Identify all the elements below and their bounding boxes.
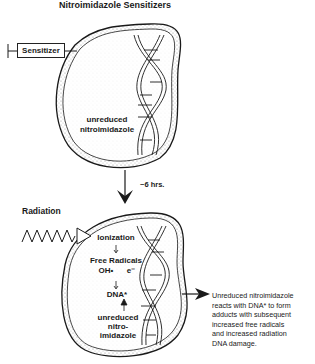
- step-ionization: Ionization: [86, 233, 146, 242]
- sensitizer-syringe-label: Sensitizer: [17, 43, 65, 58]
- bottom-label-unreduced: unreduced: [88, 313, 148, 322]
- radiation-label: Radiation: [22, 207, 72, 216]
- step-free-radicals: Free Radicals: [80, 256, 152, 265]
- time-label: ~6 hrs.: [140, 180, 164, 189]
- outcome-description: Unreduced nitroimidazole reacts with DNA…: [212, 291, 315, 349]
- outcome-line: reacts with DNA* to form: [212, 301, 315, 311]
- outcome-line: DNA damage.: [212, 339, 315, 349]
- outcome-line: adducts with subsequent: [212, 310, 315, 320]
- radiation-wave-icon: [22, 228, 91, 244]
- radical-oh: OH•: [94, 266, 118, 275]
- bottom-label-imidazole: imidazole: [88, 331, 148, 340]
- step-dna-star: DNA*: [100, 290, 134, 299]
- outcome-line: Unreduced nitroimidazole: [212, 291, 315, 301]
- top-label-nitroimidazole: nitroimidazole: [72, 125, 142, 134]
- outcome-line: and increased radiation: [212, 329, 315, 339]
- outcome-line: increased free radicals: [212, 320, 315, 330]
- top-cell-membrane: [56, 24, 180, 168]
- radical-electron: e⁻: [124, 266, 138, 275]
- bottom-label-nitro: nitro-: [88, 322, 148, 331]
- down-arrow-icon: [117, 170, 133, 204]
- top-label-unreduced: unreduced: [72, 115, 142, 124]
